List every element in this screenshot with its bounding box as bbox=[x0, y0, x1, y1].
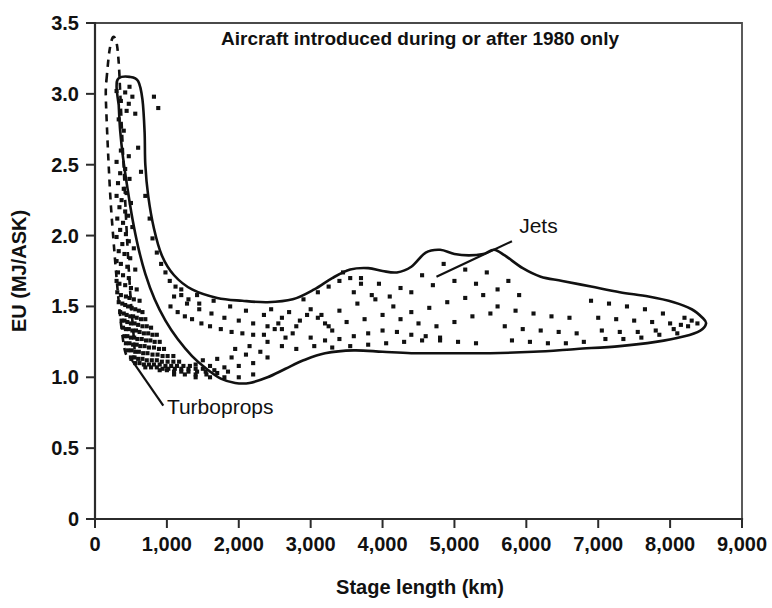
data-point bbox=[496, 304, 500, 308]
aircraft-energy-use-scatter-chart: 00.51.01.52.02.53.03.5 01,0002,0003,0004… bbox=[0, 0, 772, 608]
data-point bbox=[485, 270, 489, 274]
data-point bbox=[179, 287, 183, 291]
data-point bbox=[427, 306, 431, 310]
data-point bbox=[127, 239, 131, 243]
y-tick-label: 3.0 bbox=[51, 83, 79, 105]
x-tick-label: 1,000 bbox=[142, 533, 192, 555]
data-point bbox=[116, 181, 120, 185]
data-point bbox=[327, 324, 331, 328]
data-point bbox=[156, 106, 160, 110]
data-point bbox=[341, 270, 345, 274]
data-point bbox=[152, 95, 156, 99]
data-point bbox=[222, 375, 226, 379]
data-point bbox=[122, 187, 126, 191]
data-point bbox=[251, 372, 255, 376]
data-point bbox=[148, 217, 152, 221]
data-point bbox=[298, 319, 302, 323]
data-point bbox=[603, 337, 607, 341]
y-tick-label: 0.5 bbox=[51, 437, 79, 459]
data-point bbox=[600, 328, 604, 332]
data-point bbox=[127, 327, 131, 331]
data-point bbox=[147, 345, 151, 349]
data-point bbox=[208, 375, 212, 379]
data-point bbox=[409, 290, 413, 294]
data-point bbox=[280, 327, 284, 331]
data-point bbox=[158, 368, 162, 372]
data-point bbox=[135, 337, 139, 341]
data-point bbox=[625, 304, 629, 308]
x-tick-label: 5,000 bbox=[429, 533, 479, 555]
x-tick-label: 9,000 bbox=[717, 533, 767, 555]
data-point bbox=[140, 337, 144, 341]
data-point bbox=[130, 328, 134, 332]
data-point bbox=[240, 331, 244, 335]
data-point bbox=[143, 317, 147, 321]
data-point bbox=[130, 348, 134, 352]
data-point bbox=[517, 293, 521, 297]
data-point bbox=[463, 268, 467, 272]
data-point bbox=[176, 310, 180, 314]
data-point bbox=[695, 321, 699, 325]
data-point bbox=[133, 112, 137, 116]
data-point bbox=[265, 324, 269, 328]
data-point bbox=[496, 287, 500, 291]
data-point bbox=[152, 345, 156, 349]
data-point bbox=[607, 302, 611, 306]
data-point bbox=[661, 311, 665, 315]
data-point bbox=[474, 282, 478, 286]
data-point bbox=[127, 296, 131, 300]
data-point bbox=[470, 314, 474, 318]
data-point bbox=[377, 282, 381, 286]
data-point bbox=[686, 324, 690, 328]
data-point bbox=[557, 330, 561, 334]
y-axis-ticks: 00.51.01.52.02.53.03.5 bbox=[51, 12, 95, 530]
data-point bbox=[283, 336, 287, 340]
y-axis-title: EU (MJ/ASK) bbox=[8, 210, 30, 332]
data-point bbox=[363, 317, 367, 321]
data-point bbox=[117, 300, 121, 304]
data-point bbox=[125, 313, 129, 317]
data-point bbox=[366, 331, 370, 335]
data-point bbox=[564, 341, 568, 345]
data-point bbox=[119, 293, 123, 297]
data-point bbox=[116, 270, 120, 274]
data-point bbox=[582, 340, 586, 344]
data-point bbox=[141, 351, 145, 355]
data-point bbox=[409, 310, 413, 314]
data-point bbox=[424, 334, 428, 338]
data-point bbox=[348, 344, 352, 348]
data-point bbox=[402, 340, 406, 344]
data-point bbox=[124, 341, 128, 345]
data-point bbox=[514, 309, 518, 313]
data-point bbox=[258, 350, 262, 354]
data-point bbox=[352, 290, 356, 294]
data-point bbox=[251, 321, 255, 325]
data-point bbox=[445, 300, 449, 304]
data-point bbox=[355, 302, 359, 306]
data-point bbox=[139, 317, 143, 321]
data-point bbox=[119, 148, 123, 152]
data-point bbox=[323, 338, 327, 342]
data-point bbox=[129, 201, 133, 205]
data-point bbox=[155, 358, 159, 362]
data-point bbox=[127, 276, 131, 280]
data-point bbox=[233, 347, 237, 351]
data-point bbox=[136, 357, 140, 361]
data-point bbox=[135, 343, 139, 347]
data-point bbox=[531, 311, 535, 315]
data-point bbox=[132, 297, 136, 301]
data-point bbox=[129, 286, 133, 290]
data-point bbox=[420, 338, 424, 342]
y-tick-label: 3.5 bbox=[51, 12, 79, 34]
data-point bbox=[481, 293, 485, 297]
data-point bbox=[130, 306, 134, 310]
data-point bbox=[179, 370, 183, 374]
data-point bbox=[373, 297, 377, 301]
annotation-group: JetsTurboprops bbox=[131, 214, 558, 418]
data-point bbox=[452, 320, 456, 324]
data-point bbox=[675, 331, 679, 335]
data-point bbox=[416, 321, 420, 325]
data-point bbox=[117, 249, 121, 253]
data-point bbox=[132, 321, 136, 325]
data-point bbox=[123, 90, 127, 94]
